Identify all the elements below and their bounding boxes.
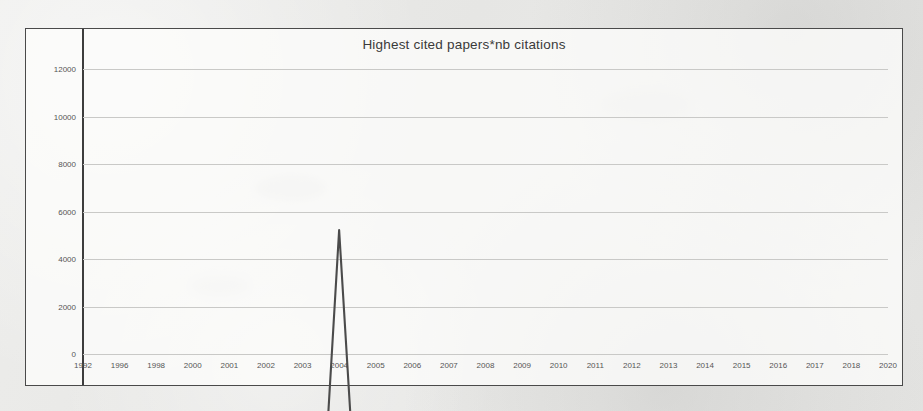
chart-frame: Highest cited papers*nb citations 120001… (25, 28, 903, 386)
y-axis-tick-label: 12000 (54, 65, 76, 74)
y-axis-tick-label: 4000 (58, 255, 76, 264)
y-axis-tick-label: 8000 (58, 160, 76, 169)
y-axis-tick-label: 0 (72, 350, 76, 359)
y-axis-tick-label: 10000 (54, 112, 76, 121)
series-line-path (83, 230, 888, 411)
chart-title: Highest cited papers*nb citations (26, 37, 902, 52)
y-axis-tick-label: 2000 (58, 302, 76, 311)
y-axis-tick-label: 6000 (58, 207, 76, 216)
plot-area: 120001000080006000400020000 199219961998… (83, 69, 888, 354)
series-line-chart (83, 69, 888, 411)
